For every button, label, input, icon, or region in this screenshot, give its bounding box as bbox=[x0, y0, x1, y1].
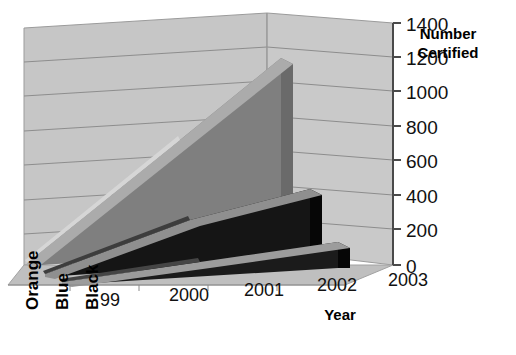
y-tick-label-200: 200 bbox=[406, 220, 438, 241]
chart-svg: 1400 1200 1000 800 600 400 200 0 99 2000… bbox=[0, 0, 516, 355]
y-tick-label-400: 400 bbox=[406, 186, 438, 207]
y-tick-label-600: 600 bbox=[406, 151, 438, 172]
x-tick-label-99: 99 bbox=[100, 290, 120, 310]
x-tick-label-2000: 2000 bbox=[169, 285, 209, 305]
x-tick-label-2002: 2002 bbox=[317, 275, 357, 295]
y-axis-title-line2: Certified bbox=[418, 44, 479, 61]
x-axis-title: Year bbox=[324, 306, 356, 323]
chart-container: 1400 1200 1000 800 600 400 200 0 99 2000… bbox=[0, 0, 516, 355]
x-tick-label-2003: 2003 bbox=[388, 270, 428, 290]
y-axis-title-line1: Number bbox=[420, 25, 477, 42]
y-tick-label-1000: 1000 bbox=[406, 82, 448, 103]
depth-label-orange: Orange bbox=[23, 250, 42, 310]
x-tick-label-2001: 2001 bbox=[244, 280, 284, 300]
y-tick-label-800: 800 bbox=[406, 117, 438, 138]
depth-label-black: Black bbox=[83, 264, 102, 310]
depth-label-blue: Blue bbox=[53, 273, 72, 310]
y-axis-ticks bbox=[393, 23, 401, 265]
